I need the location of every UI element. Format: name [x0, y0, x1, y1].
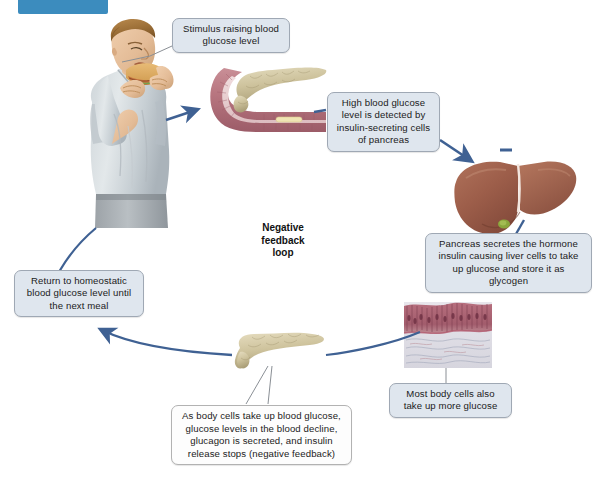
pancreas-illustration: [230, 330, 326, 372]
pancreas-and-duodenum-illustration: [202, 62, 328, 134]
loop-label-line-2: feedback: [243, 235, 323, 248]
callout-high-blood-glucose-detected: High blood glucose level is detected by …: [327, 92, 440, 152]
callout-body-cells-take-up-glucose: Most body cells also take up more glucos…: [389, 383, 512, 418]
loop-label-line-3: loop: [243, 247, 323, 260]
body-cells-tissue-micrograph: [404, 302, 492, 368]
header-chip: [18, 0, 108, 14]
loop-label-line-1: Negative: [243, 222, 323, 235]
callout-pancreas-secretes-insulin: Pancreas secretes the hormone insulin ca…: [425, 233, 592, 293]
callout-negative-feedback-explanation: As body cells take up blood glucose, glu…: [171, 405, 352, 465]
negative-feedback-loop-label: Negative feedback loop: [243, 222, 323, 260]
figure-canvas: Stimulus raising blood glucose level Hig…: [0, 0, 609, 496]
callout-stimulus: Stimulus raising blood glucose level: [172, 18, 290, 53]
callout-return-to-homeostasis: Return to homeostatic blood glucose leve…: [14, 270, 144, 317]
liver-illustration: [448, 148, 580, 246]
